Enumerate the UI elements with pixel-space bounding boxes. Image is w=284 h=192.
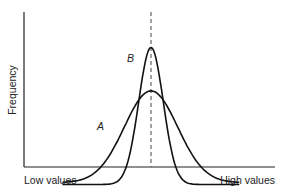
y-axis-label: Frequency xyxy=(6,64,18,114)
x-tick-label-low: Low values xyxy=(24,174,77,186)
x-tick-label-high: High values xyxy=(220,174,275,186)
chart: A B Frequency Low values High values xyxy=(0,0,284,192)
curve-b-label: B xyxy=(127,52,134,64)
curve-a-label: A xyxy=(96,120,104,132)
